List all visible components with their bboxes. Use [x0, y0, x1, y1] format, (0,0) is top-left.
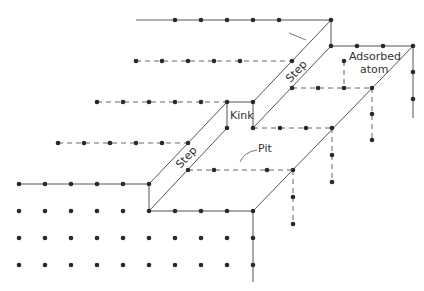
crystal-surface-diagram: Step Step Kink Pit Adsorbed atom: [0, 0, 424, 291]
adsorbed-label-line2: atom: [360, 64, 389, 75]
adsorbed-label-line1: Adsorbed: [349, 51, 401, 62]
diagram-canvas: [0, 0, 424, 291]
kink-label: Kink: [230, 110, 254, 121]
pit-label: Pit: [258, 143, 272, 154]
